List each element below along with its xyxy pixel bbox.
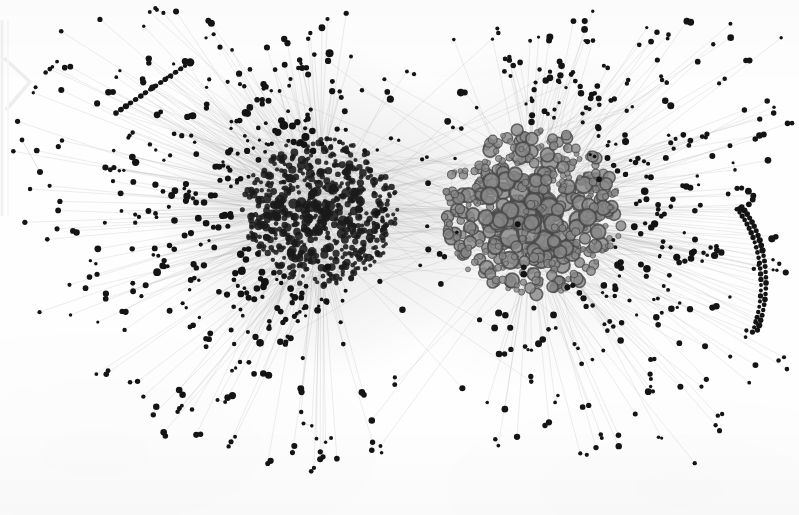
network-graph-canvas <box>0 0 799 515</box>
network-graph-figure <box>0 0 799 515</box>
